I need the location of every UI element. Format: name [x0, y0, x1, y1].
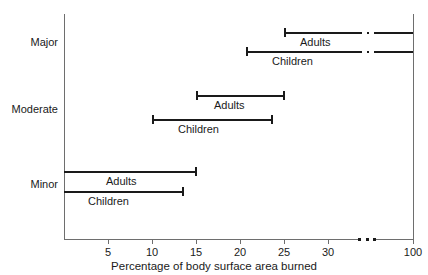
bar-label-moderate-children: Children [178, 124, 219, 135]
bar-moderate-adults [196, 95, 284, 97]
x-tick-label-25: 25 [264, 247, 304, 258]
bar-cap-moderate-adults-start [196, 91, 198, 100]
x-axis-title: Percentage of body surface area burned [0, 261, 428, 273]
x-tick-label-5: 5 [88, 247, 128, 258]
bar-label-major-adults: Adults [300, 37, 331, 48]
bar-break-major-children [360, 50, 376, 53]
bar-break-major-adults [360, 31, 376, 34]
category-label-moderate: Moderate [0, 104, 58, 115]
x-tick-5 [108, 239, 109, 244]
bar-major-children [246, 51, 413, 53]
bar-cap-major-children-start [246, 47, 248, 56]
bar-label-moderate-adults: Adults [214, 100, 245, 111]
x-tick-25 [284, 239, 285, 244]
bar-cap-moderate-children-end [271, 115, 273, 124]
x-axis-break [358, 238, 376, 241]
x-tick-100 [413, 239, 414, 244]
x-tick-15 [196, 239, 197, 244]
x-tick-label-10: 10 [132, 247, 172, 258]
x-tick-label-15: 15 [176, 247, 216, 258]
bar-label-major-children: Children [272, 56, 313, 67]
category-label-minor: Minor [0, 179, 58, 190]
burn-severity-range-chart: Major Moderate Minor Adults Children Adu… [0, 0, 428, 275]
bar-cap-moderate-adults-end [283, 91, 285, 100]
category-label-major: Major [0, 37, 58, 48]
bar-cap-major-adults-start [284, 28, 286, 37]
bar-cap-minor-children-end [182, 187, 184, 196]
bar-label-minor-children: Children [88, 196, 129, 207]
bar-minor-children [64, 191, 183, 193]
x-tick-label-100: 100 [393, 247, 428, 258]
y-axis-line [64, 14, 65, 239]
x-tick-30 [328, 239, 329, 244]
right-axis-line [413, 14, 414, 239]
x-tick-20 [240, 239, 241, 244]
x-tick-label-30: 30 [308, 247, 348, 258]
bar-label-minor-adults: Adults [106, 176, 137, 187]
bar-cap-moderate-children-start [152, 115, 154, 124]
x-tick-label-20: 20 [220, 247, 260, 258]
bar-cap-minor-adults-end [195, 167, 197, 176]
x-tick-10 [152, 239, 153, 244]
bar-major-adults [284, 32, 413, 34]
bar-moderate-children [152, 119, 272, 121]
bar-minor-adults [64, 171, 196, 173]
